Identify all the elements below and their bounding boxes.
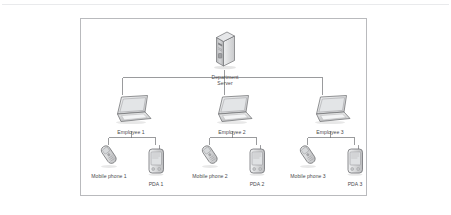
node-label: Employee 2 <box>202 129 262 135</box>
laptop-icon <box>202 93 262 129</box>
node-label: Employee 3 <box>300 129 360 135</box>
node-pda-2[interactable]: PDA 2 <box>238 143 276 187</box>
pda-icon <box>238 143 276 181</box>
node-employee-3[interactable]: Employee 3 <box>300 93 360 135</box>
node-label: PDA 3 <box>336 181 374 187</box>
pda-icon <box>336 143 374 181</box>
node-pda-1[interactable]: PDA 1 <box>137 143 175 187</box>
node-label: Mobile phone 1 <box>81 173 137 179</box>
mobile-phone-icon <box>182 143 238 173</box>
node-pda-3[interactable]: PDA 3 <box>336 143 374 187</box>
node-label: PDA 2 <box>238 181 276 187</box>
mobile-phone-icon <box>280 143 336 173</box>
node-label: Department Server <box>194 74 256 86</box>
node-department-server[interactable]: Department Server <box>194 28 256 86</box>
server-tower-icon <box>194 28 256 74</box>
node-mobile-phone-1[interactable]: Mobile phone 1 <box>81 143 137 179</box>
node-label: Mobile phone 3 <box>280 173 336 179</box>
mobile-phone-icon <box>81 143 137 173</box>
page-top-divider <box>2 4 449 5</box>
node-label: Mobile phone 2 <box>182 173 238 179</box>
server-label-line1: Department <box>211 74 238 80</box>
node-label: Employee 1 <box>101 129 161 135</box>
node-mobile-phone-2[interactable]: Mobile phone 2 <box>182 143 238 179</box>
diagram-canvas: Department Server <box>0 0 451 215</box>
node-employee-2[interactable]: Employee 2 <box>202 93 262 135</box>
laptop-icon <box>300 93 360 129</box>
node-mobile-phone-3[interactable]: Mobile phone 3 <box>280 143 336 179</box>
pda-icon <box>137 143 175 181</box>
laptop-icon <box>101 93 161 129</box>
node-employee-1[interactable]: Employee 1 <box>101 93 161 135</box>
node-label: PDA 1 <box>137 181 175 187</box>
server-label-line2: Server <box>217 80 232 86</box>
